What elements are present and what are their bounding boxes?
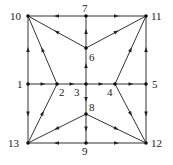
- arrowhead-icon: [84, 29, 88, 34]
- arrowhead-icon: [26, 112, 30, 117]
- node-3: [84, 82, 88, 86]
- node-5: [144, 82, 148, 86]
- arrowhead-icon: [144, 112, 148, 117]
- arrowhead-icon: [99, 82, 104, 86]
- node-label-11: 11: [151, 10, 162, 22]
- arrowhead-icon: [128, 111, 134, 117]
- arrowhead-icon: [26, 47, 30, 52]
- node-label-4: 4: [107, 86, 113, 98]
- node-10: [26, 14, 30, 18]
- arrowhead-icon: [84, 97, 88, 102]
- node-11: [144, 14, 148, 18]
- arrowhead-icon: [54, 141, 59, 145]
- arrowhead-icon: [114, 14, 119, 18]
- node-7: [84, 14, 88, 18]
- arrowhead-icon: [41, 82, 46, 86]
- node-6: [84, 46, 88, 50]
- node-1: [26, 82, 30, 86]
- node-13: [26, 141, 30, 145]
- node-12: [144, 141, 148, 145]
- node-label-1: 1: [17, 78, 23, 90]
- arrowhead-icon: [113, 126, 119, 131]
- node-label-12: 12: [151, 137, 162, 149]
- node-label-7: 7: [82, 2, 88, 14]
- node-8: [84, 112, 88, 116]
- arrowhead-icon: [54, 126, 60, 131]
- node-label-6: 6: [89, 51, 95, 63]
- arrowhead-icon: [54, 14, 59, 18]
- arrowhead-icon: [40, 110, 45, 116]
- arrowhead-icon: [84, 63, 88, 68]
- arrowhead-icon: [40, 47, 45, 53]
- arrowhead-icon: [128, 47, 133, 53]
- edges-layer: [28, 16, 146, 143]
- node-label-2: 2: [59, 86, 65, 98]
- node-label-13: 13: [8, 137, 20, 149]
- node-label-10: 10: [10, 10, 22, 22]
- node-label-5: 5: [152, 78, 158, 90]
- node-4: [113, 82, 117, 86]
- arrows-layer: [26, 14, 148, 145]
- arrowhead-icon: [114, 141, 119, 145]
- node-label-8: 8: [89, 101, 95, 113]
- arrowhead-icon: [54, 29, 60, 35]
- arrowhead-icon: [113, 29, 119, 35]
- arrowhead-icon: [129, 82, 134, 86]
- node-label-3: 3: [74, 86, 80, 98]
- arrowhead-icon: [84, 127, 88, 132]
- directed-graph-diagram: 12345678910111213: [0, 0, 173, 165]
- arrowhead-icon: [144, 47, 148, 52]
- labels-layer: 12345678910111213: [8, 2, 162, 157]
- node-label-9: 9: [82, 145, 88, 157]
